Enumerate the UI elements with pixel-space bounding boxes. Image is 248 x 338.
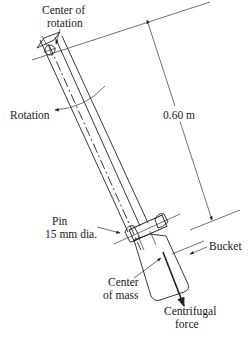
arm-inner-edge	[55, 37, 140, 226]
centrifugal-force-label-1: Centrifugal	[164, 305, 216, 318]
pin-leader	[97, 227, 120, 233]
bucket-outline	[134, 234, 189, 301]
arm-right-edge	[62, 36, 148, 223]
pin-label-2: 15 mm dia.	[45, 228, 97, 240]
bucket-label: Bucket	[209, 240, 242, 252]
center-of-rotation-label-2: rotation	[47, 17, 83, 29]
pin-label-1: Pin	[52, 215, 68, 227]
center-of-mass-leader	[134, 258, 161, 278]
arm-left-edge	[40, 40, 128, 232]
centrifugal-force-label-2: force	[175, 318, 199, 330]
center-of-rotation-label-1: Center of	[42, 4, 85, 16]
pin-bracket-mid	[150, 231, 156, 245]
length-label: 0.60 m	[163, 109, 195, 121]
center-of-mass-label-2: of mass	[103, 289, 139, 301]
rotation-label: Rotation	[10, 109, 50, 121]
bucket-leader	[190, 247, 207, 254]
centrifuge-diagram: 0.60 m Rotation Center of rotation Pin 1…	[0, 0, 248, 338]
mass-reference-line	[190, 210, 240, 230]
bucket-reference-line	[172, 241, 204, 254]
pin-axis	[114, 214, 180, 244]
center-of-mass-label-1: Center	[108, 276, 139, 288]
